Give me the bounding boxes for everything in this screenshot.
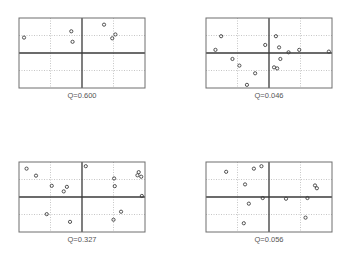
data-point [242,222,245,225]
data-point [62,190,65,193]
data-point [34,174,37,177]
data-point [274,35,277,38]
data-point [315,187,318,190]
panel-3: Q=0.327 [19,162,145,244]
data-point [71,40,74,43]
data-point [220,35,223,38]
data-point [114,33,117,36]
data-point [298,48,301,51]
data-point [102,23,105,26]
data-point [277,46,280,49]
data-point [238,64,241,67]
data-point [260,165,263,168]
panel-4: Q=0.056 [206,162,332,244]
data-point [65,185,68,188]
data-point [304,216,307,219]
data-point [252,167,255,170]
panel-caption: Q=0.046 [255,91,284,100]
data-point [119,210,122,213]
data-point [243,183,246,186]
data-point [68,220,71,223]
data-point [25,167,28,170]
data-point [279,57,282,60]
data-point [247,202,250,205]
data-point [245,83,248,86]
data-point [70,30,73,33]
data-point [113,185,116,188]
data-point [84,165,87,168]
data-point [136,174,139,177]
data-point [214,48,217,51]
panel-caption: Q=0.327 [68,235,97,244]
scatter-figure: Q=0.600 Q=0.046 Q=0.327 Q=0.056 [0,0,356,253]
data-point [264,43,267,46]
panel-caption: Q=0.600 [68,91,97,100]
data-point [50,184,53,187]
data-point [254,72,257,75]
data-point [225,170,228,173]
data-point [231,57,234,60]
data-point [276,67,279,70]
panel-2: Q=0.046 [206,18,332,100]
panel-1: Q=0.600 [19,18,145,100]
panel-caption: Q=0.056 [255,235,284,244]
data-point [140,175,143,178]
data-point [22,36,25,39]
